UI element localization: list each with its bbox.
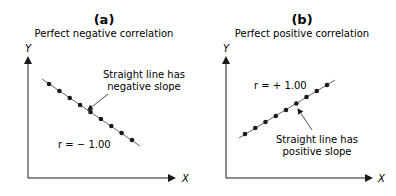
panel-a-x-label: X (181, 173, 190, 184)
data-point (294, 101, 299, 106)
panel-a-r-value: r = − 1.00 (58, 139, 111, 150)
data-point (253, 126, 258, 131)
panel-b: (b) Perfect positive correlation Y X Str… (223, 12, 386, 184)
panel-b-note-arrow (298, 109, 312, 130)
data-point (47, 82, 52, 87)
data-point (130, 138, 135, 143)
data-point (304, 95, 309, 100)
data-point (263, 120, 268, 125)
data-point (274, 114, 279, 119)
data-point (88, 110, 93, 115)
panel-b-note-line2: positive slope (282, 146, 351, 157)
data-point (315, 89, 320, 94)
data-point (78, 103, 83, 108)
data-point (119, 131, 124, 136)
panel-b-y-label: Y (223, 43, 230, 54)
data-point (68, 96, 73, 101)
data-point (109, 124, 114, 129)
panel-a: (a) Perfect negative correlation Y X Str… (25, 12, 190, 184)
data-point (325, 83, 330, 88)
data-point (284, 108, 289, 113)
panel-a-note-line2: negative slope (107, 81, 181, 92)
panel-a-y-label: Y (25, 43, 32, 54)
panel-b-r-value: r = + 1.00 (254, 80, 307, 91)
correlation-figure: (a) Perfect negative correlation Y X Str… (0, 0, 396, 196)
panel-b-note-line1: Straight line has (276, 134, 358, 145)
panel-b-letter: (b) (291, 12, 312, 27)
panel-a-letter: (a) (94, 12, 115, 27)
data-point (57, 89, 62, 94)
panel-a-note-arrow (88, 94, 108, 110)
panel-b-x-label: X (377, 173, 386, 184)
panel-b-title: Perfect positive correlation (235, 28, 369, 39)
data-point (243, 132, 248, 137)
panel-a-title: Perfect negative correlation (35, 28, 174, 39)
panel-a-note-line1: Straight line has (103, 69, 185, 80)
data-point (99, 117, 104, 122)
